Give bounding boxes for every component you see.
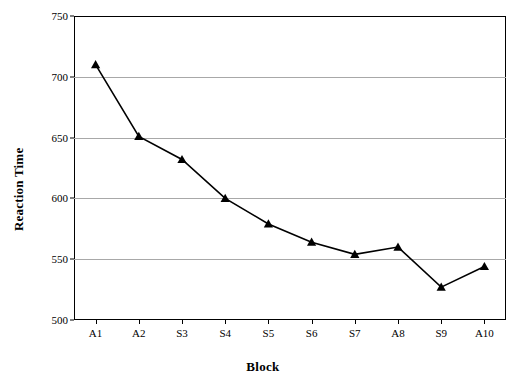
y-tick-label: 750 (52, 10, 69, 22)
x-tick-mark (225, 320, 226, 324)
data-point-marker (264, 219, 273, 227)
y-tick-label: 600 (52, 192, 69, 204)
x-axis-title: Block (0, 359, 526, 375)
x-tick-label: S9 (435, 327, 447, 339)
x-tick-mark (268, 320, 269, 324)
y-tick-label: 700 (52, 71, 69, 83)
x-tick-label: A1 (89, 327, 102, 339)
y-tick-label: 550 (52, 253, 69, 265)
plot-area: 500550600650700750 A1A2S3S4S5S6S7A8S9A10 (74, 16, 506, 320)
x-tick-mark (312, 320, 313, 324)
data-point-marker (480, 262, 489, 270)
y-axis-title: Reaction Time (8, 0, 30, 379)
x-tick-label: S4 (219, 327, 231, 339)
x-tick-mark (96, 320, 97, 324)
x-tick-label: A8 (391, 327, 404, 339)
series-line (96, 65, 485, 288)
data-point-marker (91, 60, 100, 68)
x-tick-label: S5 (263, 327, 275, 339)
y-tick-label: 650 (52, 132, 69, 144)
data-point-marker (177, 155, 186, 163)
series-reaction-time (74, 16, 506, 320)
data-point-marker (134, 132, 143, 140)
x-tick-mark (182, 320, 183, 324)
line-chart: Reaction Time 500550600650700750 A1A2S3S… (0, 0, 526, 379)
x-tick-mark (355, 320, 356, 324)
x-tick-mark (484, 320, 485, 324)
x-tick-label: A10 (475, 327, 494, 339)
x-tick-mark (398, 320, 399, 324)
x-tick-label: S6 (306, 327, 318, 339)
x-tick-mark (441, 320, 442, 324)
x-tick-mark (139, 320, 140, 324)
x-tick-label: S7 (349, 327, 361, 339)
x-tick-label: S3 (176, 327, 188, 339)
y-tick-label: 500 (52, 314, 69, 326)
data-point-marker (393, 242, 402, 250)
x-tick-label: A2 (132, 327, 145, 339)
